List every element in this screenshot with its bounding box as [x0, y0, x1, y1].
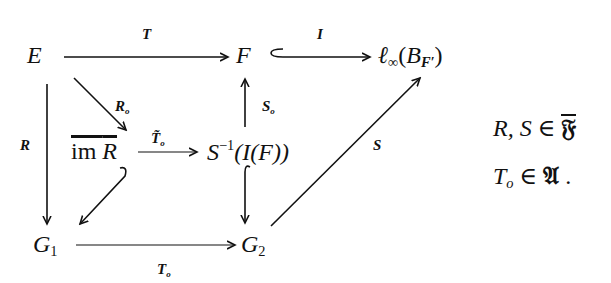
label-So-sub: o — [270, 106, 275, 116]
label-To-text: T — [157, 261, 166, 277]
label-T-text: T — [142, 26, 151, 42]
F-prime-sub: F′ — [421, 54, 435, 70]
node-G2: G2 — [241, 232, 266, 259]
fraktur-A: 𝔄 — [543, 161, 559, 190]
label-I: I — [317, 27, 323, 42]
G2-text: G — [241, 231, 258, 257]
node-G1: G1 — [33, 232, 58, 259]
G1-text: G — [33, 231, 50, 257]
R-S-vars: R, S — [493, 115, 532, 141]
label-I-text: I — [317, 26, 323, 42]
element-of-1: ∈ — [532, 115, 562, 141]
node-E-text: E — [27, 42, 42, 68]
condition-R-S-in-F: R, S ∈ 𝔉 — [493, 114, 576, 140]
label-Ro-text: R — [115, 98, 125, 114]
node-F: F — [236, 43, 251, 67]
G1-sub: 1 — [50, 243, 57, 259]
paren-close: ) — [435, 42, 443, 68]
node-im-R: im R — [71, 139, 117, 163]
node-E: E — [27, 43, 42, 67]
label-Ro: Ro — [115, 99, 130, 116]
label-Tto-text: T̃ — [151, 130, 160, 146]
label-R: R — [20, 138, 30, 153]
label-T: T — [142, 27, 151, 42]
period: . — [559, 163, 571, 189]
To-var: T — [493, 163, 506, 189]
To-sub: o — [506, 175, 513, 191]
label-R-text: R — [20, 137, 30, 153]
I-F-text: (I(F)) — [234, 139, 289, 165]
B-symbol: B — [406, 42, 421, 68]
label-S: S — [373, 138, 381, 153]
im-R-overlined: im R — [71, 135, 117, 164]
condition-To-in-A: To ∈ 𝔄 . — [493, 164, 571, 191]
node-Sinv-IF: S−1(I(F)) — [207, 138, 289, 164]
label-Tto-sub: o — [160, 138, 165, 148]
fraktur-F-bar: 𝔉 — [561, 114, 576, 139]
label-Ro-sub: o — [125, 106, 130, 116]
R-text: R — [102, 138, 117, 164]
arrow-imR-G1-hook — [80, 168, 126, 224]
label-S-text: S — [373, 137, 381, 153]
element-of-2: ∈ — [514, 163, 544, 189]
infinity-sub: ∞ — [388, 54, 398, 70]
arrow-Sinv-G2-hook — [245, 166, 250, 223]
label-So: So — [262, 99, 275, 116]
arrow-I-hook — [271, 49, 370, 57]
S-text: S — [207, 139, 219, 165]
minus-one-sup: −1 — [219, 137, 234, 153]
im-text: im — [71, 138, 102, 164]
node-linf-BF: ℓ∞(BF′) — [378, 43, 443, 70]
label-Tto: T̃o — [151, 131, 165, 148]
arrow-S — [271, 78, 420, 226]
label-To: To — [157, 262, 171, 279]
label-To-sub: o — [166, 269, 171, 279]
G2-sub: 2 — [258, 243, 265, 259]
node-F-text: F — [236, 42, 251, 68]
ell-symbol: ℓ — [378, 42, 388, 68]
